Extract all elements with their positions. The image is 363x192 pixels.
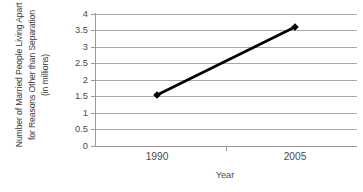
x-tick-label-1990: 1990 xyxy=(112,150,202,164)
x-tick-label-2005: 2005 xyxy=(250,150,340,164)
line-chart: Number of Married People Living Apart fo… xyxy=(0,0,363,192)
series-line xyxy=(157,27,295,95)
x-axis-title: Year xyxy=(180,169,270,181)
